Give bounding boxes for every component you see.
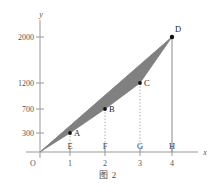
x-axis-name: x (202, 148, 207, 157)
y-tick-label-700: 700 (22, 105, 34, 114)
data-point-D (170, 35, 174, 39)
y-tick-label-1200: 1200 (18, 79, 34, 88)
point-label-C: C (144, 78, 150, 88)
point-label-D: D (175, 24, 181, 34)
origin-label: O (30, 159, 36, 168)
figure-container: 2000 1200 700 300 1 2 3 4 O y x A B C D … (0, 0, 216, 192)
x-tick-label-3: 3 (138, 159, 142, 168)
foot-label-F: F (103, 141, 108, 151)
point-label-A: A (74, 128, 81, 138)
x-tick-label-2: 2 (103, 159, 107, 168)
x-tick-label-1: 1 (68, 159, 72, 168)
figure-caption: 图 2 (0, 168, 216, 181)
y-axis-name: y (38, 10, 43, 19)
y-tick-label-2000: 2000 (18, 33, 34, 42)
foot-label-G: G (137, 141, 143, 151)
foot-label-H: H (169, 141, 175, 151)
data-point-C (138, 81, 142, 85)
data-point-A (68, 131, 72, 135)
y-tick-label-300: 300 (22, 129, 34, 138)
chart-canvas: 2000 1200 700 300 1 2 3 4 O y x A B C D … (0, 0, 216, 192)
x-tick-label-4: 4 (170, 159, 174, 168)
foot-label-E: E (67, 141, 72, 151)
point-label-B: B (109, 104, 115, 114)
chord-line-OD (40, 37, 172, 152)
data-point-B (103, 107, 107, 111)
